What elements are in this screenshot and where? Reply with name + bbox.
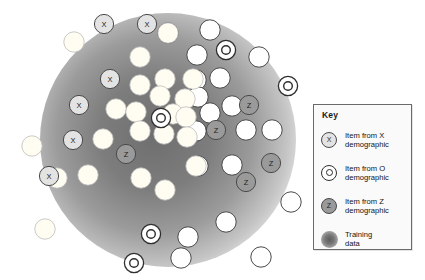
data-point-plain	[177, 127, 197, 147]
data-point-x: X	[63, 130, 82, 149]
key-item-o-label: Item from O demographic	[345, 164, 389, 183]
data-point-plain	[106, 99, 126, 119]
data-point-plain	[126, 102, 146, 122]
data-point-o	[216, 40, 235, 59]
svg-text:X: X	[70, 136, 75, 145]
data-point-plain	[281, 192, 301, 212]
data-point-plain	[130, 121, 150, 141]
svg-text:X: X	[101, 20, 106, 29]
data-point-o	[141, 224, 160, 243]
diagram-canvas: XXXXXX ZZZZZ Key X Item from X demograph…	[0, 0, 425, 280]
data-point-plain	[22, 136, 42, 156]
data-point-z: Z	[116, 144, 135, 163]
data-point-plain	[222, 155, 242, 175]
data-point-o	[151, 108, 170, 127]
data-point-plain	[236, 120, 256, 140]
data-point-x: X	[137, 14, 156, 33]
svg-text:Z: Z	[244, 178, 249, 187]
z-glyph: Z	[327, 202, 331, 209]
data-point-plain	[183, 69, 203, 89]
data-point-x: X	[94, 14, 113, 33]
data-point-plain	[262, 120, 282, 140]
data-point-plain	[150, 86, 170, 106]
svg-text:Z: Z	[124, 150, 129, 159]
data-point-x: X	[100, 69, 119, 88]
data-point-plain	[200, 20, 220, 40]
data-point-plain	[178, 227, 198, 247]
svg-text:X: X	[76, 101, 81, 110]
data-point-plain	[155, 180, 175, 200]
svg-text:Z: Z	[269, 159, 274, 168]
z-marker-icon: Z	[320, 197, 339, 216]
data-point-z: Z	[236, 172, 255, 191]
svg-text:X: X	[144, 20, 149, 29]
x-glyph: X	[327, 136, 332, 143]
key-item-z-label: Item from Z demographic	[345, 197, 389, 216]
x-marker-icon: X	[320, 131, 339, 150]
data-point-plain	[93, 129, 113, 149]
data-point-z: Z	[239, 95, 258, 114]
data-point-x: X	[69, 95, 88, 114]
svg-text:Z: Z	[214, 126, 219, 135]
data-point-plain	[249, 47, 269, 67]
data-point-plain	[131, 168, 151, 188]
data-point-plain	[210, 68, 230, 88]
svg-text:X: X	[46, 172, 51, 181]
data-point-plain	[187, 45, 207, 65]
key-item-z: Z Item from Z demographic	[320, 192, 412, 220]
data-point-plain	[176, 107, 196, 127]
data-point-o	[278, 76, 297, 95]
data-point-x: X	[39, 166, 58, 185]
data-point-z: Z	[261, 153, 280, 172]
data-point-plain	[35, 219, 55, 239]
svg-text:Z: Z	[247, 101, 252, 110]
data-point-plain	[186, 156, 206, 176]
key-item-o: Item from O demographic	[320, 159, 412, 187]
key-item-x: X Item from X demographic	[320, 126, 412, 154]
data-point-plain	[158, 23, 178, 43]
data-point-plain	[130, 75, 150, 95]
key-item-training-data: Training data	[320, 225, 412, 253]
training-data-blob-icon	[320, 230, 339, 249]
data-point-o	[124, 253, 143, 272]
svg-text:X: X	[107, 75, 112, 84]
o-marker-icon	[320, 164, 339, 183]
key-panel: Key X Item from X demographic Item from …	[313, 104, 412, 250]
data-point-plain	[130, 47, 150, 67]
data-point-plain	[78, 165, 98, 185]
key-title: Key	[322, 110, 338, 120]
o-inner-ring-icon	[326, 169, 333, 176]
data-point-plain	[216, 212, 236, 232]
data-point-plain	[251, 247, 271, 267]
data-point-z: Z	[206, 120, 225, 139]
key-item-training-data-label: Training data	[345, 230, 372, 249]
data-point-plain	[171, 248, 191, 268]
data-point-plain	[64, 32, 84, 52]
key-item-x-label: Item from X demographic	[345, 131, 389, 150]
